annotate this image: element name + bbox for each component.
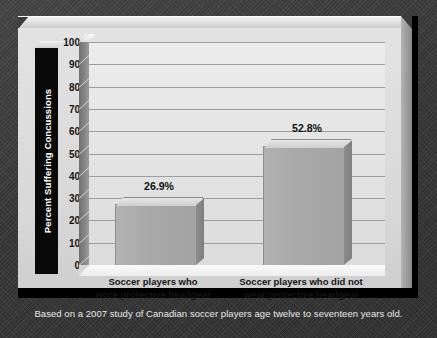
bar-value-label: 26.9% xyxy=(144,180,174,192)
axis-wall-step xyxy=(79,100,89,110)
bar xyxy=(115,204,196,265)
axis-wall-step xyxy=(79,122,89,132)
chart-face-panel: Percent Suffering Concussions 0102030405… xyxy=(18,28,401,288)
plot-left-wall xyxy=(79,42,89,265)
bar xyxy=(263,146,344,265)
y-axis-tick-labels: 0102030405060708090100 xyxy=(56,42,80,265)
axis-wall-step xyxy=(79,189,89,199)
bar-top-face xyxy=(116,197,204,206)
bar-top-face xyxy=(264,139,352,148)
y-axis-title: Percent Suffering Concussions xyxy=(41,89,52,233)
category-label-line: wear protective headgear xyxy=(227,288,375,301)
category-label-line: Soccer players who did not xyxy=(227,275,375,288)
plot-area: 26.9%52.8% xyxy=(89,42,385,265)
bar-value-label: 52.8% xyxy=(292,122,322,134)
axis-wall-step xyxy=(79,211,89,221)
axis-wall-step xyxy=(79,144,89,154)
gridline xyxy=(89,87,385,88)
axis-wall-step xyxy=(79,78,89,88)
axis-wall-step xyxy=(79,234,89,244)
gridline xyxy=(89,42,385,43)
bar-side-face xyxy=(344,141,352,265)
gridline xyxy=(89,109,385,110)
category-label-line: wore protective headgear xyxy=(79,288,227,301)
chart-page: Percent Suffering Concussions 0102030405… xyxy=(0,0,437,338)
chart-caption: Based on a 2007 study of Canadian soccer… xyxy=(0,308,437,319)
chart-3d-block: Percent Suffering Concussions 0102030405… xyxy=(18,16,412,288)
bar-side-face xyxy=(196,198,204,265)
gridline xyxy=(89,64,385,65)
x-axis-category-labels: Soccer players whowore protective headge… xyxy=(79,275,385,309)
axis-wall-step xyxy=(79,55,89,65)
y-axis-title-panel: Percent Suffering Concussions xyxy=(35,48,58,274)
y-tick-label: 100 xyxy=(63,37,80,48)
chart-right-bevel xyxy=(401,16,412,288)
category-label: Soccer players whowore protective headge… xyxy=(79,275,227,301)
category-label-line: Soccer players who xyxy=(79,275,227,288)
category-label: Soccer players who did notwear protectiv… xyxy=(227,275,375,301)
plot-wrapper: 26.9%52.8% xyxy=(89,42,385,265)
chart-right-bevel-corner xyxy=(401,16,412,29)
axis-wall-step xyxy=(79,167,89,177)
gridline xyxy=(89,131,385,132)
